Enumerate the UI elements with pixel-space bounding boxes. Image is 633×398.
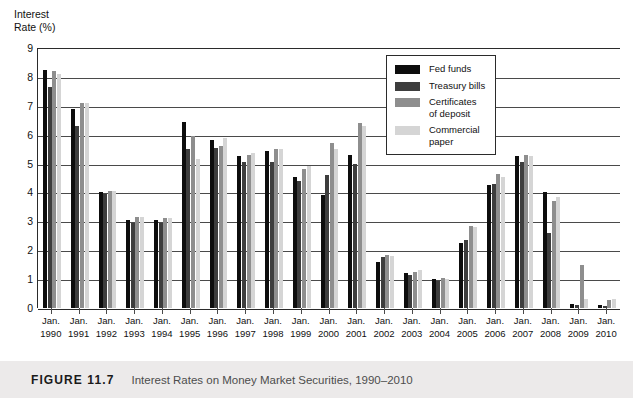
bar — [492, 184, 496, 308]
bar — [237, 156, 241, 308]
legend-swatch-icon — [395, 82, 420, 91]
figure-number: FIGURE 11.7 — [31, 373, 114, 387]
bar — [612, 299, 616, 308]
bar — [418, 270, 422, 308]
bar — [99, 192, 103, 308]
bar — [529, 156, 533, 308]
bar — [334, 149, 338, 308]
bar-group — [348, 49, 366, 308]
bar — [75, 126, 79, 308]
bar — [376, 262, 380, 308]
bar-group — [210, 49, 228, 308]
bar — [520, 162, 524, 308]
bar — [362, 126, 366, 308]
x-tick — [51, 308, 52, 314]
bar — [348, 155, 352, 308]
bar — [580, 265, 584, 308]
y-tick-label-3: 3 — [7, 215, 33, 227]
bar — [186, 149, 190, 308]
figure-caption-text: Interest Rates on Money Market Securitie… — [131, 374, 412, 386]
legend-item-label: Treasury bills — [429, 80, 485, 92]
bar — [501, 177, 505, 308]
y-axis-title: Interest Rate (%) — [14, 8, 55, 34]
bar — [48, 87, 52, 308]
bar — [297, 181, 301, 308]
bar — [459, 243, 463, 308]
bar — [330, 143, 334, 308]
y-tick-label-0: 0 — [7, 302, 33, 314]
bar — [219, 146, 223, 308]
bar-group — [293, 49, 311, 308]
bar — [547, 233, 551, 308]
bar-group — [182, 49, 200, 308]
x-tick — [79, 308, 80, 314]
y-tick-label-2: 2 — [7, 244, 33, 256]
bar — [464, 240, 468, 308]
bar — [469, 226, 473, 308]
x-tick — [551, 308, 552, 314]
y-tick-label-8: 8 — [7, 71, 33, 83]
bar — [381, 257, 385, 308]
legend-item-label: Commercial paper — [429, 124, 480, 147]
x-tick-label: Jan. 2010 — [589, 315, 623, 340]
bar — [390, 256, 394, 308]
legend-swatch-icon — [395, 126, 420, 135]
bar-group — [237, 49, 255, 308]
bar-group — [598, 49, 616, 308]
legend-item: Treasury bills — [395, 80, 495, 92]
bar — [556, 197, 560, 308]
bar — [210, 140, 214, 308]
bar — [404, 273, 408, 308]
bar — [436, 281, 440, 308]
legend-swatch-icon — [395, 65, 420, 74]
y-tick-label-6: 6 — [7, 129, 33, 141]
bar — [307, 166, 311, 308]
bar — [445, 279, 449, 308]
bar — [159, 223, 163, 308]
bar — [126, 220, 130, 308]
x-tick — [329, 308, 330, 314]
x-tick — [356, 308, 357, 314]
bars-layer — [38, 49, 620, 308]
x-tick — [606, 308, 607, 314]
bar — [353, 164, 357, 308]
bar — [496, 174, 500, 308]
bar — [52, 71, 56, 308]
x-tick — [384, 308, 385, 314]
bar — [196, 159, 200, 308]
bar — [140, 217, 144, 308]
x-tick — [440, 308, 441, 314]
x-tick — [273, 308, 274, 314]
legend-item-label: Certificates of deposit — [429, 96, 477, 119]
bar — [432, 279, 436, 308]
x-tick — [523, 308, 524, 314]
bar — [385, 255, 389, 308]
bar — [71, 109, 75, 308]
bar-group — [515, 49, 533, 308]
bar-group — [126, 49, 144, 308]
bar — [524, 155, 528, 308]
bar — [279, 149, 283, 308]
bar — [80, 103, 84, 308]
bar — [85, 103, 89, 308]
bar — [103, 194, 107, 308]
bar — [584, 299, 588, 308]
x-tick — [106, 308, 107, 314]
bar — [168, 218, 172, 308]
x-tick — [495, 308, 496, 314]
bar — [108, 191, 112, 308]
plot-area: 9876543210 — [37, 48, 620, 308]
bar — [247, 155, 251, 308]
legend-item-label: Fed funds — [429, 63, 471, 75]
x-axis-labels: Jan. 1990Jan. 1991Jan. 1992Jan. 1993Jan.… — [37, 315, 620, 349]
bar-group — [543, 49, 561, 308]
legend-swatch-icon — [395, 98, 420, 107]
bar-group — [43, 49, 61, 308]
x-tick — [578, 308, 579, 314]
figure-container: Interest Rate (%) 9876543210 Jan. 1990Ja… — [0, 0, 633, 398]
bar — [358, 123, 362, 308]
y-tick-label-9: 9 — [7, 42, 33, 54]
bar — [265, 151, 269, 308]
y-tick-label-5: 5 — [7, 158, 33, 170]
bar — [441, 278, 445, 308]
